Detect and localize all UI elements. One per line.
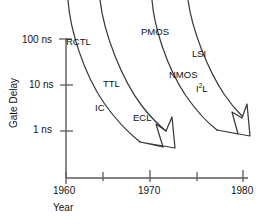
curve-label-ecl: ECL	[133, 113, 151, 123]
x-axis-ticks	[66, 170, 243, 184]
axis-lines	[66, 38, 248, 178]
curve-label-i2l: I2L	[196, 83, 208, 94]
x-tick-label-1980: 1980	[231, 186, 253, 196]
curve-label-ttl: TTL	[103, 79, 120, 89]
trend-band-mos-edge-left	[152, 0, 217, 130]
curve-label-lsi: LSI	[192, 49, 206, 59]
y-tick-label-10ns: 10 ns	[29, 80, 53, 90]
x-axis-title: Year	[53, 203, 73, 213]
trend-band-mos-arrowhead	[217, 104, 250, 136]
x-tick-label-1960: 1960	[53, 186, 75, 196]
curve-label-rctl: RCTL	[66, 37, 91, 47]
trend-band-bipolar	[68, 0, 175, 148]
x-tick-label-1970: 1970	[138, 186, 160, 196]
curve-label-ic: IC	[95, 103, 105, 113]
y-axis-title: Gate Delay	[9, 73, 19, 133]
trend-band-mos	[152, 0, 250, 136]
y-tick-label-100ns: 100 ns	[22, 35, 52, 45]
gate-delay-vs-year-chart: 100 ns 10 ns 1 ns 1960 1970 1980 Year Ga…	[0, 0, 270, 224]
y-tick-label-1ns: 1 ns	[33, 125, 52, 135]
curve-label-nmos: NMOS	[169, 70, 198, 80]
curve-label-i2l-tail: L	[202, 83, 207, 94]
curve-label-pmos: PMOS	[141, 27, 169, 37]
